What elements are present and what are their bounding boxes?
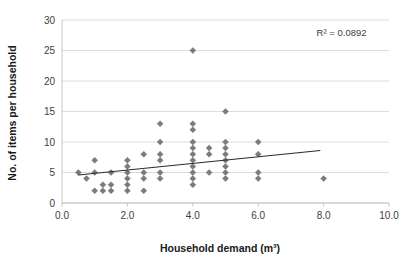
x-axis-title: Household demand (m³) [160, 242, 280, 254]
plot-background [0, 0, 401, 263]
y-tick-label: 30 [44, 15, 56, 26]
x-tick-label: 0.0 [55, 210, 69, 221]
r-squared-annotation: R² = 0.0892 [317, 27, 367, 38]
y-tick-label: 20 [44, 76, 56, 87]
y-axis-title: No. of items per household [6, 45, 18, 180]
x-tick-label: 8.0 [317, 210, 331, 221]
annotations-group: R² = 0.0892 [317, 27, 367, 38]
x-tick-label: 2.0 [120, 210, 134, 221]
x-tick-label: 4.0 [186, 210, 200, 221]
scatter-chart: 0.02.04.06.08.010.0 051015202530 R² = 0.… [0, 0, 401, 263]
y-tick-label: 25 [44, 45, 56, 56]
y-tick-label: 0 [49, 198, 55, 209]
chart-canvas: 0.02.04.06.08.010.0 051015202530 R² = 0.… [0, 0, 401, 263]
y-tick-label: 10 [44, 137, 56, 148]
x-tick-label: 6.0 [251, 210, 265, 221]
y-tick-label: 5 [49, 167, 55, 178]
x-tick-label: 10.0 [379, 210, 399, 221]
y-tick-label: 15 [44, 106, 56, 117]
